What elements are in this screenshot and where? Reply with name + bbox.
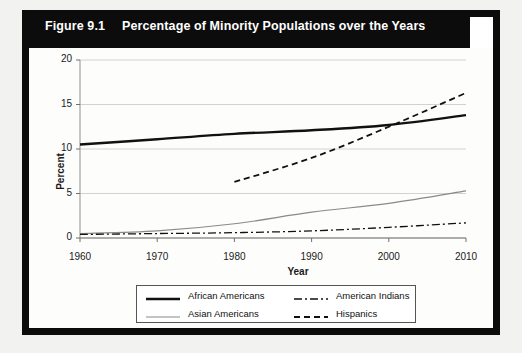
figure-title-band: Figure 9.1Percentage of Minority Populat… [22,10,470,48]
legend-item: African Americans [137,290,285,301]
legend-swatch [146,308,180,318]
series-line [234,93,466,182]
chart-plot: Percent Year 05101520 196019701980199020… [29,48,493,328]
legend-label: American Indians [336,290,409,301]
series-line [80,115,466,144]
legend-label: African Americans [188,290,265,301]
figure-number: Figure 9.1 [45,19,105,33]
legend-label: Asian Americans [188,308,259,319]
figure-title: Figure 9.1Percentage of Minority Populat… [45,19,425,33]
chart-legend: African AmericansAmerican IndiansAsian A… [136,285,416,323]
legend-swatch [294,290,328,300]
series-line [80,191,466,234]
legend-item: American Indians [285,290,417,301]
figure-body: Percent Year 05101520 196019701980199020… [29,48,493,328]
legend-swatch [294,308,328,318]
figure-root: Figure 9.1Percentage of Minority Populat… [0,0,522,353]
legend-item: Hispanics [285,308,417,319]
series-line [80,223,466,235]
legend-item: Asian Americans [137,308,285,319]
legend-label: Hispanics [336,308,377,319]
legend-swatch [146,290,180,300]
figure-title-text: Percentage of Minority Populations over … [122,19,425,33]
